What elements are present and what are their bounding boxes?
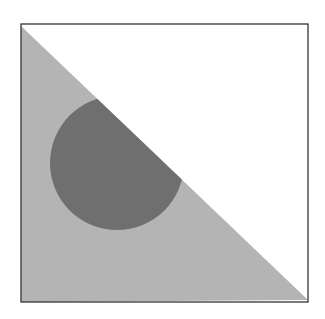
diagram-figure <box>0 0 325 319</box>
